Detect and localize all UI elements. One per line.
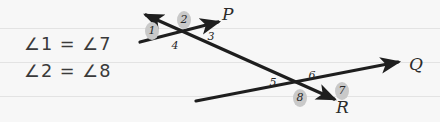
angle-label-3: 3 — [204, 30, 218, 44]
angle-label-1: 1 — [145, 24, 159, 38]
angle-label-2: 2 — [177, 13, 191, 27]
line-name-P: P — [222, 4, 233, 24]
worksheet-canvas: ∠1 = ∠7 ∠2 = ∠8 12345678 PQR — [0, 0, 440, 122]
angle-label-8: 8 — [293, 91, 307, 105]
angle-label-7: 7 — [335, 84, 349, 98]
angle-label-4: 4 — [168, 39, 182, 53]
line-name-Q: Q — [409, 54, 423, 74]
equation-1: ∠1 = ∠7 — [24, 34, 112, 54]
line-name-R: R — [336, 97, 349, 117]
angle-label-5: 5 — [266, 76, 280, 90]
equation-2: ∠2 = ∠8 — [24, 61, 112, 81]
line-R — [146, 15, 334, 99]
angle-label-6: 6 — [305, 69, 319, 83]
